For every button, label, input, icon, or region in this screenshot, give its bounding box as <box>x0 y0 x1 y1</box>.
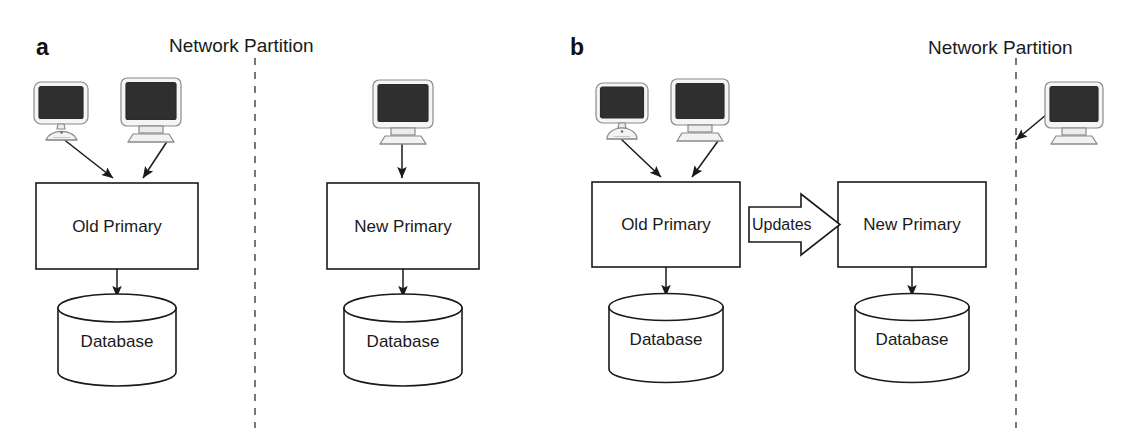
panel-letter-a: a <box>36 36 49 59</box>
crt-computer-icon <box>666 77 734 143</box>
database-label-a-left: Database <box>58 333 176 350</box>
crt-computer-icon <box>116 76 186 144</box>
partition-label-b: Network Partition <box>928 38 1073 57</box>
network-partition-figure: a Network Partition Old Primary New Prim… <box>0 0 1136 439</box>
old-primary-label-a: Old Primary <box>36 218 198 235</box>
new-primary-label-b: New Primary <box>838 216 986 233</box>
client-arrow-a1 <box>62 138 113 178</box>
database-label-a-right: Database <box>344 333 462 350</box>
updates-arrow-label: Updates <box>752 217 812 233</box>
client-arrow-b1 <box>621 139 661 177</box>
imac-computer-icon <box>592 81 654 141</box>
old-primary-label-b: Old Primary <box>592 216 740 233</box>
crt-computer-icon <box>1040 80 1108 146</box>
client-arrow-a2 <box>143 140 168 178</box>
crt-computer-icon <box>368 78 438 146</box>
panel-letter-b: b <box>570 36 584 59</box>
imac-computer-icon <box>30 80 94 142</box>
partition-label-a: Network Partition <box>169 36 314 55</box>
client-arrow-b2 <box>692 141 718 177</box>
database-label-b-right: Database <box>855 331 969 348</box>
new-primary-label-a: New Primary <box>327 218 479 235</box>
database-label-b-left: Database <box>609 331 723 348</box>
